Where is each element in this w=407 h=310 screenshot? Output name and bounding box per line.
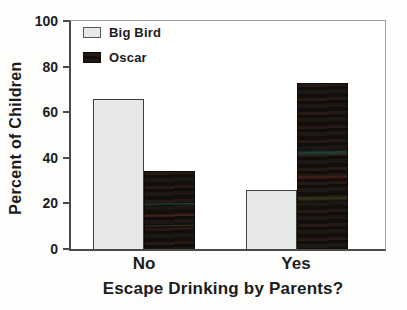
y-tick-label: 0 xyxy=(50,240,58,258)
bar-big-bird-yes xyxy=(246,190,297,249)
y-tick-label: 60 xyxy=(42,103,58,121)
bar-oscar-yes xyxy=(297,83,348,249)
bar-big-bird-no xyxy=(93,99,144,249)
x-category-label-yes: Yes xyxy=(281,254,310,274)
legend-swatch-oscar xyxy=(83,52,101,63)
y-tick-label: 100 xyxy=(35,12,58,30)
legend-swatch-big-bird xyxy=(83,27,101,38)
x-axis-title: Escape Drinking by Parents? xyxy=(103,279,344,299)
legend-item-big-bird: Big Bird xyxy=(83,25,161,40)
y-tick-label: 20 xyxy=(42,194,58,212)
legend-label-oscar: Oscar xyxy=(109,50,147,65)
bar-oscar-no xyxy=(144,171,195,249)
x-category-label-no: No xyxy=(133,254,156,274)
legend-item-oscar: Oscar xyxy=(83,50,161,65)
bar-chart-figure: Percent of Children Big Bird Oscar 02040… xyxy=(0,0,407,310)
legend-label-big-bird: Big Bird xyxy=(109,25,161,40)
legend: Big Bird Oscar xyxy=(83,25,161,65)
y-tick-label: 40 xyxy=(42,149,58,167)
y-tick-label: 80 xyxy=(42,58,58,76)
y-axis-title: Percent of Children xyxy=(7,61,25,214)
plot-area: Big Bird Oscar xyxy=(69,20,386,251)
